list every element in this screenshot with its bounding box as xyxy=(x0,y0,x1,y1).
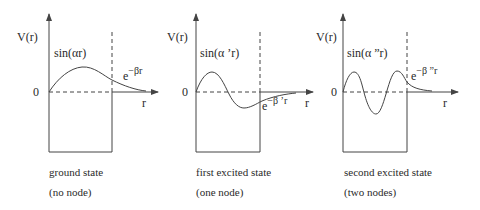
exp-exponent: −β ”r xyxy=(416,65,437,76)
caption-title: first excited state xyxy=(196,166,271,178)
origin-label: 0 xyxy=(33,86,39,98)
caption-subtitle: (two nodes) xyxy=(344,186,396,198)
inside-function-label: sin(α ”r) xyxy=(347,47,388,59)
x-axis-label: r xyxy=(142,97,146,109)
inside-function-label: sin(α ’r) xyxy=(200,47,239,59)
y-axis-label: V(r) xyxy=(167,31,188,43)
caption-subtitle: (one node) xyxy=(196,186,243,198)
panel-second-excited-state xyxy=(343,14,458,152)
y-axis-label: V(r) xyxy=(316,31,337,43)
wavefunction-diagram xyxy=(0,0,480,210)
caption-subtitle: (no node) xyxy=(49,186,91,198)
exp-exponent: −βr xyxy=(128,65,142,76)
x-axis-label: r xyxy=(305,97,309,109)
caption-title: second excited state xyxy=(344,166,432,178)
caption-title: ground state xyxy=(49,166,103,178)
panel-ground-state xyxy=(49,14,158,152)
panel-first-excited-state xyxy=(196,14,313,152)
origin-label: 0 xyxy=(182,86,188,98)
outside-function-label: e−β ’r xyxy=(262,100,287,112)
inside-function-label: sin(αr) xyxy=(54,47,86,59)
outside-function-label: e−β ”r xyxy=(411,70,437,82)
exp-exponent: −β ’r xyxy=(267,95,287,106)
origin-label: 0 xyxy=(331,86,337,98)
y-axis-label: V(r) xyxy=(17,31,38,43)
x-axis-label: r xyxy=(443,97,447,109)
outside-function-label: e−βr xyxy=(123,70,142,82)
